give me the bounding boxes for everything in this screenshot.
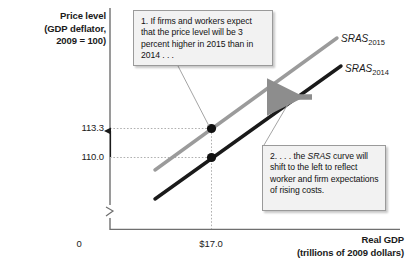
x-axis-title-line-2: (trillions of 2009 dollars)	[258, 247, 404, 260]
y-axis-title-line-2: (GDP deflator,	[10, 23, 106, 36]
callout-box-1: 1. If firms and workers expect that the …	[133, 10, 273, 66]
y-axis-title: Price level (GDP deflator, 2009 = 100)	[10, 10, 106, 48]
curve-label-sras-2014-subscript: 2014	[372, 68, 389, 77]
x-axis-title-line-1: Real GDP	[258, 234, 404, 247]
curve-label-sras-2014: SRAS2014	[345, 63, 389, 77]
x-tick-label-17: $17.0	[185, 238, 237, 249]
origin-label: 0	[70, 238, 88, 249]
y-axis-title-line-1: Price level	[10, 10, 106, 23]
callout-1-leader	[178, 66, 209, 126]
curve-label-sras-2014-text: SRAS	[345, 63, 372, 74]
callout-2-leader	[264, 104, 288, 145]
y-tick-label-113-3: 113.3	[52, 122, 104, 133]
sras-shift-figure: Price level (GDP deflator, 2009 = 100) R…	[0, 0, 408, 271]
axis-break-symbol	[106, 207, 113, 216]
curve-label-sras-2015-text: SRAS	[341, 33, 368, 44]
callout-2-italic-sras: SRAS	[308, 151, 331, 161]
x-axis-title: Real GDP (trillions of 2009 dollars)	[258, 234, 404, 259]
callout-2-before: 2. . . . the	[270, 151, 308, 161]
equilibrium-point-2014	[207, 153, 216, 162]
curve-label-sras-2015: SRAS2015	[341, 33, 385, 47]
y-axis-title-line-3: 2009 = 100)	[10, 35, 106, 48]
curve-label-sras-2015-subscript: 2015	[368, 38, 385, 47]
callout-box-2: 2. . . . the SRAS curve will shift to th…	[262, 145, 386, 211]
y-tick-label-110-0: 110.0	[52, 151, 104, 162]
